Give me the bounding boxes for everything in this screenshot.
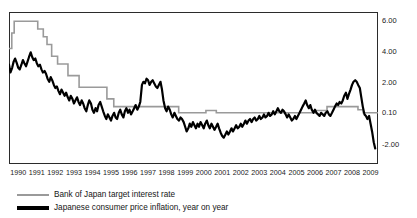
x-axis-tick-label: 2006 bbox=[305, 168, 325, 178]
x-axis-tick-label: 1997 bbox=[138, 168, 158, 178]
x-axis-tick-label: 2004 bbox=[268, 168, 288, 178]
x-axis-tick-label: 2007 bbox=[323, 168, 343, 178]
legend-item-bank-of-japan-target-interest-rate: Bank of Japan target interest rate bbox=[17, 188, 397, 201]
series-line-bank-of-japan-target-interest-rate bbox=[9, 21, 378, 113]
legend-item-japanese-consumer-price-inflation: Japanese consumer price inflation, year … bbox=[17, 201, 397, 214]
x-axis-tick-label: 1996 bbox=[120, 168, 140, 178]
chart-figure: 6.004.002.000.10-2.00 199019911992199319… bbox=[0, 0, 417, 218]
x-axis-tick-label: 1994 bbox=[82, 168, 102, 178]
legend-label-bank-of-japan-target-interest-rate: Bank of Japan target interest rate bbox=[54, 190, 175, 199]
x-axis-tick-label: 1990 bbox=[8, 168, 28, 178]
x-axis-tick-label: 2008 bbox=[342, 168, 362, 178]
x-axis-tick-label: 1992 bbox=[45, 168, 65, 178]
y-axis-tick-label: -2.00 bbox=[382, 141, 399, 149]
x-axis-tick-label: 1999 bbox=[175, 168, 195, 178]
x-axis-tick-label: 1993 bbox=[64, 168, 84, 178]
x-axis-tick-label: 2001 bbox=[212, 168, 232, 178]
y-axis-tick-label: 4.00 bbox=[382, 48, 397, 56]
series-group-japanese-consumer-price-inflation bbox=[9, 52, 375, 148]
y-axis-tick-label: 6.00 bbox=[382, 17, 397, 25]
legend-swatch-black-line-icon bbox=[17, 206, 49, 210]
x-axis-tick-label: 1991 bbox=[27, 168, 47, 178]
legend-swatch-gray-line-icon bbox=[17, 194, 49, 196]
x-axis-tick-label: 2009 bbox=[361, 168, 381, 178]
x-axis-tick-label: 1995 bbox=[101, 168, 121, 178]
legend-label-japanese-consumer-price-inflation: Japanese consumer price inflation, year … bbox=[54, 203, 228, 212]
x-axis-tick-label: 2000 bbox=[194, 168, 214, 178]
x-axis-tick-label: 2003 bbox=[249, 168, 269, 178]
y-axis-tick-label: 0.10 bbox=[382, 109, 397, 117]
x-axis-tick-label: 1998 bbox=[157, 168, 177, 178]
chart-legend: Bank of Japan target interest rate Japan… bbox=[17, 188, 397, 214]
chart-plot-svg bbox=[9, 12, 378, 164]
y-axis-tick-labels: 6.004.002.000.10-2.00 bbox=[382, 12, 417, 164]
series-line-japanese-consumer-price-inflation bbox=[9, 52, 375, 148]
y-axis-tick-label: 2.00 bbox=[382, 79, 397, 87]
x-axis-tick-label: 2005 bbox=[286, 168, 306, 178]
x-axis-tick-labels: 1990199119921993199419951996199719981999… bbox=[9, 168, 378, 180]
series-group-bank-of-japan-target-interest-rate bbox=[9, 21, 378, 113]
x-axis-tick-label: 2002 bbox=[231, 168, 251, 178]
